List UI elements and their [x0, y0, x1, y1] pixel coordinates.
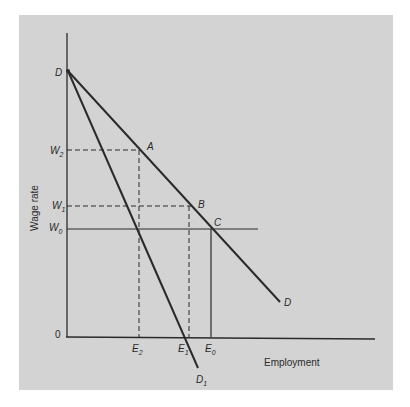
- demand-curve-d1: [68, 71, 198, 368]
- x-axis-title: Employment: [264, 357, 320, 368]
- label-w0: W0: [49, 222, 62, 235]
- point-d: [66, 69, 70, 73]
- x-axis: [66, 337, 375, 339]
- label-point-a: A: [146, 141, 154, 152]
- demand-curve-d: [68, 71, 280, 302]
- label-curve-d: D: [284, 297, 291, 308]
- label-point-c: C: [214, 217, 222, 228]
- label-point-b: B: [198, 199, 205, 210]
- label-curve-d1: D1: [196, 374, 207, 387]
- label-e2: E2: [132, 343, 143, 356]
- label-origin: 0: [55, 329, 61, 340]
- label-w1: W1: [52, 200, 65, 213]
- label-e0: E0: [205, 343, 216, 356]
- labor-demand-diagram: D A B C D D1 W2 W1 W0 E2 E1 E0 0 Employm…: [0, 0, 410, 407]
- label-point-d: D: [55, 67, 62, 78]
- label-w2: W2: [50, 145, 63, 158]
- y-axis-title: Wage rate: [29, 185, 40, 231]
